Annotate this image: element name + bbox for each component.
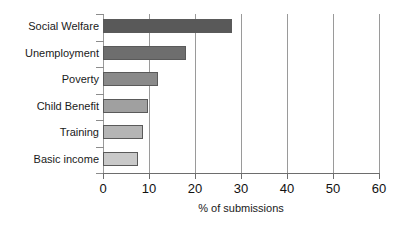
bar bbox=[103, 72, 158, 86]
category-label: Unemployment bbox=[3, 47, 99, 59]
bar-row bbox=[103, 14, 379, 41]
x-tick-mark bbox=[241, 173, 242, 179]
bar-row bbox=[103, 41, 379, 68]
category-label: Poverty bbox=[3, 73, 99, 85]
x-tick-mark bbox=[103, 173, 104, 179]
bar-row bbox=[103, 67, 379, 94]
bar-row bbox=[103, 94, 379, 121]
bar bbox=[103, 125, 143, 139]
x-axis-title: % of submissions bbox=[103, 202, 379, 214]
bar-chart: Social WelfareUnemploymentPovertyChild B… bbox=[0, 0, 411, 230]
bar bbox=[103, 19, 232, 33]
bar bbox=[103, 152, 138, 166]
category-label: Child Benefit bbox=[3, 100, 99, 112]
x-tick-mark bbox=[379, 173, 380, 179]
x-tick-label: 50 bbox=[313, 181, 353, 196]
category-axis-labels: Social WelfareUnemploymentPovertyChild B… bbox=[0, 14, 99, 173]
category-label: Training bbox=[3, 126, 99, 138]
category-label: Social Welfare bbox=[3, 20, 99, 32]
x-tick-label: 10 bbox=[129, 181, 169, 196]
x-tick-label: 30 bbox=[221, 181, 261, 196]
x-tick-mark bbox=[333, 173, 334, 179]
bar bbox=[103, 46, 186, 60]
x-tick-mark bbox=[195, 173, 196, 179]
gridline-60 bbox=[379, 14, 380, 173]
x-tick-label: 60 bbox=[359, 181, 399, 196]
bar bbox=[103, 99, 148, 113]
bar-row bbox=[103, 120, 379, 147]
category-label: Basic income bbox=[3, 153, 99, 165]
x-tick-label: 20 bbox=[175, 181, 215, 196]
bar-row bbox=[103, 147, 379, 174]
x-tick-label: 40 bbox=[267, 181, 307, 196]
x-tick-label: 0 bbox=[83, 181, 123, 196]
x-tick-mark bbox=[287, 173, 288, 179]
x-tick-mark bbox=[149, 173, 150, 179]
